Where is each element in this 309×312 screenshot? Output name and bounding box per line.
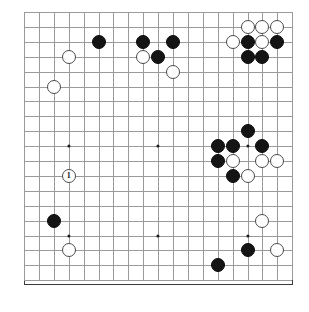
go-board-screen: 1 — [0, 0, 309, 312]
go-board-border — [24, 12, 293, 285]
go-board-container — [18, 6, 300, 296]
